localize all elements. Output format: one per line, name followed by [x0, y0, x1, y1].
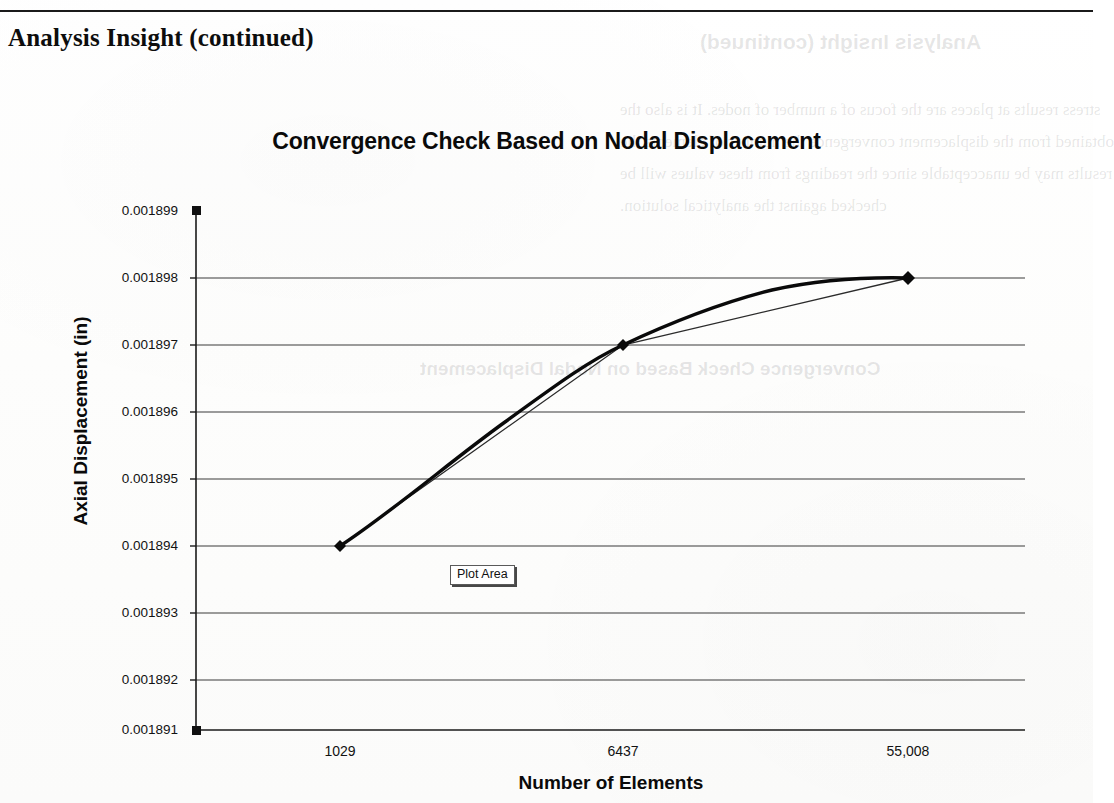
- y-tick-label: 0.001899: [82, 203, 178, 218]
- y-tick-label: 0.001895: [82, 471, 178, 486]
- y-axis-ticks: [190, 278, 196, 680]
- y-axis-tick-labels: 0.001899 0.001898 0.001897 0.001896 0.00…: [82, 100, 178, 760]
- chart-figure[interactable]: Convergence Check Based on Nodal Displac…: [0, 100, 1093, 800]
- y-tick-label: 0.001897: [82, 337, 178, 352]
- ghost-header-text: Analysis Insight (continued): [700, 30, 981, 54]
- axis-selection-handle-bottom: [192, 726, 201, 735]
- data-point-marker: [901, 271, 915, 285]
- x-tick-label: 1029: [324, 743, 355, 759]
- x-tick-label: 55,008: [887, 743, 930, 759]
- axis-selection-handle-top: [192, 206, 201, 215]
- y-tick-label: 0.001896: [82, 404, 178, 419]
- y-axis-title: Axial Displacement (in): [70, 301, 92, 541]
- x-axis-title: Number of Elements: [196, 772, 1026, 794]
- y-tick-label: 0.001894: [82, 538, 178, 553]
- x-tick-label: 6437: [607, 743, 638, 759]
- y-tick-label: 0.001898: [82, 270, 178, 285]
- data-point-marker: [617, 339, 629, 351]
- plot-area-tooltip[interactable]: Plot Area: [450, 565, 515, 585]
- y-tick-label: 0.001891: [82, 722, 178, 737]
- gridlines: [196, 278, 1025, 680]
- header-divider: [0, 10, 1093, 12]
- y-tick-label: 0.001892: [82, 672, 178, 687]
- y-tick-label: 0.001893: [82, 605, 178, 620]
- page-title: Analysis Insight (continued): [8, 24, 314, 52]
